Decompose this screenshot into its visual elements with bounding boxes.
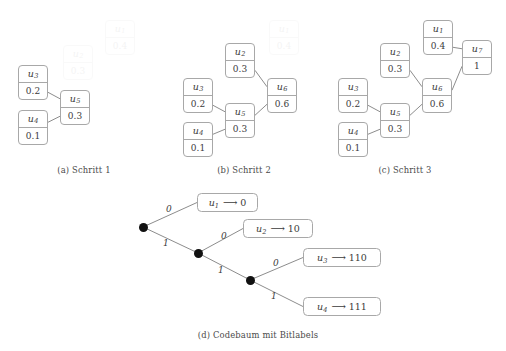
node-a-u4: u40.1 (18, 110, 48, 145)
node-weight: 0.1 (19, 127, 47, 144)
edge-c-u2-u6 (410, 70, 422, 86)
node-symbol: u4 (184, 123, 212, 139)
node-symbol: u3 (19, 66, 47, 82)
node-b-u5: u50.3 (225, 103, 255, 138)
edge-c-u1-u7 (453, 47, 462, 48)
arrow-icon: ⟶ (331, 301, 344, 312)
node-b-u6: u60.6 (267, 78, 297, 113)
tree-edge-internal1-internal2 (198, 253, 250, 280)
node-a-u1: u10.4 (105, 20, 135, 55)
node-a-u5: u50.3 (60, 90, 90, 125)
arrow-icon: ⟶ (223, 197, 236, 208)
node-weight: 0.4 (106, 37, 134, 54)
node-symbol: u5 (226, 104, 254, 120)
node-symbol: u6 (423, 79, 451, 95)
edge-b-u5-u6 (255, 104, 267, 115)
node-symbol: u4 (19, 111, 47, 127)
leaf-symbol: u4 (317, 301, 327, 312)
node-symbol: u3 (339, 79, 367, 95)
node-weight: 0.3 (381, 120, 409, 137)
node-symbol: u7 (463, 41, 491, 57)
edge-b-u4-u5 (213, 129, 225, 134)
node-c-u1: u10.4 (423, 20, 453, 55)
node-symbol: u5 (381, 104, 409, 120)
node-weight: 0.4 (270, 37, 298, 54)
node-weight: 0.3 (64, 62, 92, 79)
node-weight: 0.1 (339, 139, 367, 156)
caption-c: (c) Schritt 3 (345, 165, 465, 175)
node-weight: 0.3 (61, 107, 89, 124)
node-weight: 0.2 (339, 95, 367, 112)
node-b-u1: u10.4 (269, 20, 299, 55)
node-symbol: u1 (270, 21, 298, 37)
node-b-u3: u30.2 (183, 78, 213, 113)
caption-b: (b) Schritt 2 (184, 165, 304, 175)
node-symbol: u2 (64, 46, 92, 62)
node-c-u2: u20.3 (380, 43, 410, 78)
node-b-u2: u20.3 (225, 43, 255, 78)
code-leaf-u4: u4⟶111 (303, 297, 381, 316)
node-symbol: u2 (226, 44, 254, 60)
caption-d: (d) Codebaum mit Bitlabels (182, 330, 334, 340)
node-a-u2: u20.3 (63, 45, 93, 80)
edge-c-u3-u5 (368, 105, 380, 111)
node-c-u3: u30.2 (338, 78, 368, 113)
tree-node-internal2 (246, 276, 255, 285)
edge-c-u4-u5 (368, 129, 380, 134)
leaf-code: 10 (288, 223, 300, 234)
bit-internal1-0: 0 (221, 232, 227, 241)
leaf-symbol: u3 (317, 252, 327, 263)
node-symbol: u1 (424, 21, 452, 37)
node-c-u4: u40.1 (338, 122, 368, 157)
node-weight: 0.2 (184, 95, 212, 112)
arrow-icon: ⟶ (270, 223, 283, 234)
node-c-u5: u50.3 (380, 103, 410, 138)
figure-canvas: u10.4u20.3u30.2u50.3u40.1u10.4u20.3u30.2… (0, 0, 506, 351)
node-symbol: u4 (339, 123, 367, 139)
edge-c-u5-u6 (410, 104, 422, 115)
bit-internal2-1: 1 (271, 292, 277, 301)
node-weight: 0.2 (19, 82, 47, 99)
tree-node-internal1 (194, 249, 203, 258)
leaf-symbol: u1 (209, 197, 219, 208)
node-symbol: u1 (106, 21, 134, 37)
node-c-u7: u71 (462, 40, 492, 75)
node-weight: 0.1 (184, 139, 212, 156)
leaf-symbol: u2 (256, 223, 266, 234)
bit-root-0: 0 (166, 205, 172, 214)
leaf-code: 111 (349, 301, 367, 312)
edge-a-u3-u5 (48, 92, 60, 98)
leaf-code: 110 (349, 252, 367, 263)
caption-a: (a) Schritt 1 (24, 165, 144, 175)
node-symbol: u6 (268, 79, 296, 95)
leaf-code: 0 (240, 197, 246, 208)
node-weight: 0.6 (268, 95, 296, 112)
node-weight: 0.3 (381, 60, 409, 77)
bit-root-1: 1 (163, 239, 169, 248)
code-leaf-u3: u3⟶110 (303, 248, 381, 267)
node-c-u6: u60.6 (422, 78, 452, 113)
node-symbol: u2 (381, 44, 409, 60)
node-weight: 0.6 (423, 95, 451, 112)
tree-edge-root-internal1 (143, 227, 198, 253)
edge-c-u6-u7 (452, 66, 462, 90)
node-b-u4: u40.1 (183, 122, 213, 157)
node-symbol: u5 (61, 91, 89, 107)
bit-internal1-1: 1 (218, 266, 224, 275)
node-weight: 0.3 (226, 60, 254, 77)
edge-b-u2-u6 (255, 70, 267, 86)
arrow-icon: ⟶ (331, 252, 344, 263)
bit-internal2-0: 0 (273, 259, 279, 268)
edge-b-u3-u5 (213, 105, 225, 111)
node-weight: 1 (463, 57, 491, 74)
tree-node-root (139, 223, 148, 232)
edge-a-u4-u5 (48, 116, 60, 122)
node-symbol: u3 (184, 79, 212, 95)
node-weight: 0.4 (424, 37, 452, 54)
node-a-u3: u30.2 (18, 65, 48, 100)
node-weight: 0.3 (226, 120, 254, 137)
code-leaf-u2: u2⟶10 (243, 219, 313, 238)
code-leaf-u1: u1⟶0 (197, 193, 258, 212)
